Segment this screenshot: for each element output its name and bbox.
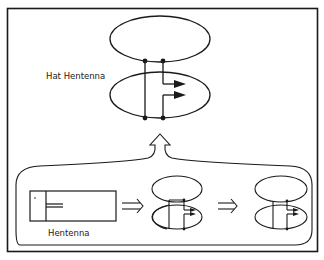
junction-dot (161, 116, 166, 121)
hat-hentenna-diagram: Hat Hentenna Hentenna (0, 0, 324, 260)
intermediate-figure (152, 176, 202, 229)
junction-dot (161, 59, 166, 64)
hentenna-label: Hentenna (48, 228, 90, 238)
arrow-right-icon (174, 91, 186, 99)
outer-frame (8, 9, 318, 252)
hat-hentenna-label: Hat Hentenna (46, 71, 105, 81)
double-arrow-right-icon (122, 199, 143, 213)
feed-arrows (143, 59, 186, 121)
arrow-right-icon (174, 80, 186, 88)
upper-loop (110, 16, 210, 62)
junction-dot (143, 116, 148, 121)
hat-hentenna-figure (110, 16, 210, 118)
hentenna-figure (30, 191, 116, 221)
near-final-figure (255, 176, 307, 229)
lower-loop (110, 72, 210, 118)
hentenna-loop (30, 191, 116, 221)
junction-dot (143, 59, 148, 64)
double-arrow-right-icon (218, 199, 237, 213)
